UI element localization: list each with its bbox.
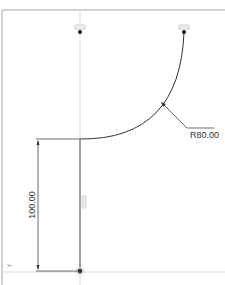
radius-dimension[interactable]: R80.00 [161,102,219,140]
radius-dimension-label[interactable]: R80.00 [190,130,219,140]
sketch-canvas[interactable]: 100.00 R80.00 Y [0,0,225,285]
origin-point[interactable] [78,269,82,273]
endpoint-top-left[interactable] [78,30,82,34]
vertical-constraint-icon[interactable] [82,196,86,208]
endpoint-arc-end[interactable] [182,30,186,34]
coincident-constraint-icon[interactable] [179,25,189,29]
radius-leader-line [162,103,187,128]
axis-label: Y [6,263,13,268]
vertical-dimension-label[interactable]: 100.00 [27,191,37,219]
coincident-constraint-icon[interactable] [75,25,85,29]
sketch-arc[interactable] [80,32,184,139]
dimension-arrow-bottom-icon [37,265,40,270]
vertical-dimension[interactable]: 100.00 [27,139,80,271]
dimension-arrow-top-icon [37,140,40,145]
